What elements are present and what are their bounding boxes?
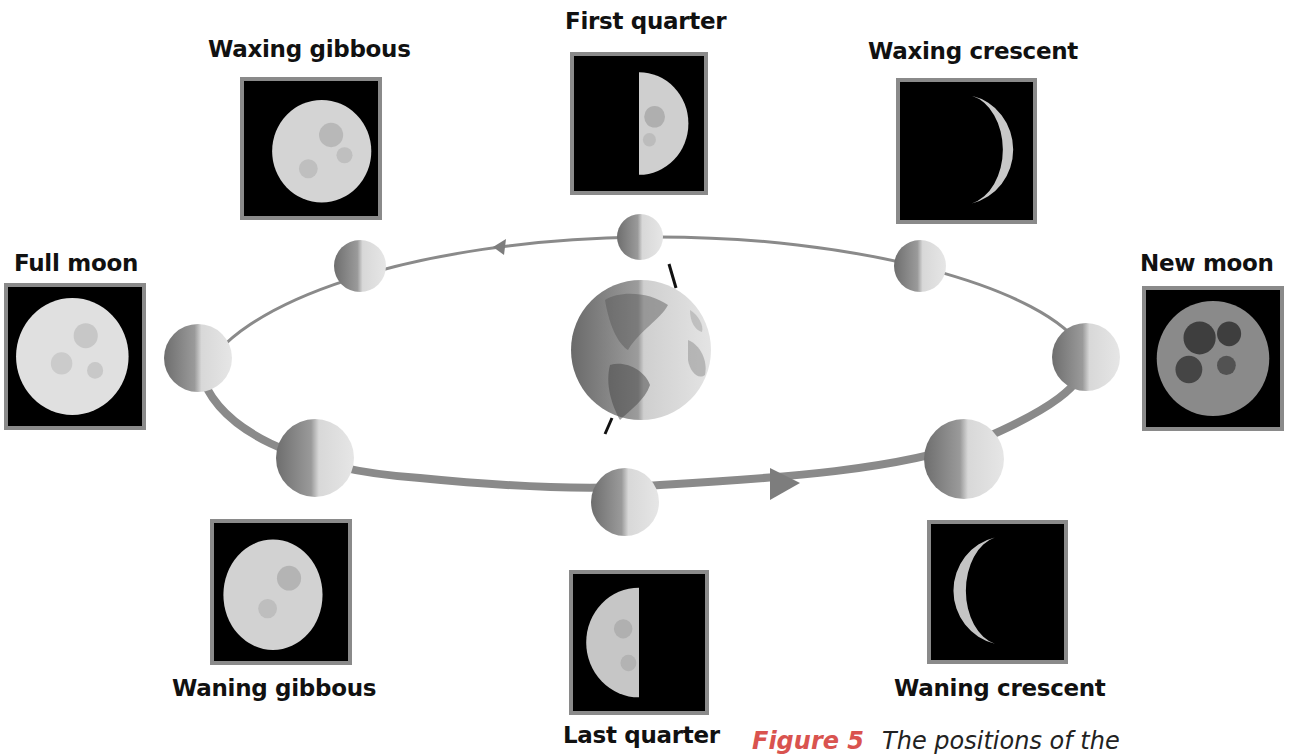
orbit-moon-first-quarter — [617, 214, 663, 260]
photo-first-quarter — [570, 52, 708, 195]
orbit-moon-waxing-crescent — [894, 240, 946, 292]
label-new-moon: New moon — [1140, 250, 1274, 276]
earth — [571, 264, 711, 434]
orbit-moon-full-moon — [164, 324, 232, 392]
orbit-moon-waning-crescent — [924, 419, 1004, 499]
label-last-quarter: Last quarter — [563, 722, 720, 748]
label-waxing-gibbous: Waxing gibbous — [208, 36, 411, 62]
photo-waning-gibbous — [210, 519, 352, 665]
figure-caption: Figure 5The positions of the — [752, 727, 1120, 755]
label-waxing-crescent: Waxing crescent — [868, 38, 1078, 64]
orbit-moon-waxing-gibbous — [334, 240, 386, 292]
orbit-moon-waning-gibbous — [276, 419, 354, 497]
photo-waning-crescent — [927, 520, 1068, 664]
figure-caption-text: The positions of the — [882, 727, 1120, 755]
photo-waxing-crescent — [896, 78, 1037, 224]
orbit-arrow-left-icon — [493, 239, 506, 255]
orbit-moon-new-moon — [1052, 323, 1120, 391]
label-waning-gibbous: Waning gibbous — [172, 675, 376, 701]
orbit-moon-last-quarter — [591, 468, 659, 536]
photo-waxing-gibbous — [240, 77, 382, 220]
photo-last-quarter — [569, 570, 709, 715]
label-waning-crescent: Waning crescent — [894, 675, 1106, 701]
label-first-quarter: First quarter — [565, 8, 726, 34]
figure-label: Figure 5 — [752, 727, 864, 755]
photo-new-moon — [1142, 286, 1284, 431]
photo-full-moon — [4, 283, 146, 430]
label-full-moon: Full moon — [14, 250, 138, 276]
